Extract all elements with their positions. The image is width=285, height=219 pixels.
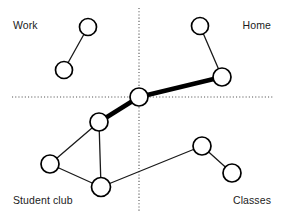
node-n1[interactable] bbox=[80, 19, 97, 36]
node-n3[interactable] bbox=[192, 18, 209, 35]
node-n6[interactable] bbox=[90, 113, 108, 131]
node-n4[interactable] bbox=[213, 68, 231, 86]
node-group bbox=[41, 18, 241, 197]
edge-n8-n9 bbox=[101, 146, 202, 187]
network-diagram: Work Home Student club Classes bbox=[0, 0, 285, 219]
quadrant-label-home: Home bbox=[243, 20, 271, 31]
node-n9[interactable] bbox=[193, 137, 211, 155]
node-n8[interactable] bbox=[92, 178, 111, 197]
node-n10[interactable] bbox=[223, 164, 241, 182]
node-n7[interactable] bbox=[41, 155, 59, 173]
edge-n4-n5-strong bbox=[139, 77, 222, 97]
node-n2[interactable] bbox=[56, 62, 73, 79]
quadrant-label-student-club: Student club bbox=[13, 195, 73, 206]
node-n5[interactable] bbox=[130, 88, 148, 106]
quadrant-label-work: Work bbox=[13, 20, 38, 31]
quadrant-label-classes: Classes bbox=[233, 195, 271, 206]
network-canvas bbox=[0, 0, 285, 219]
